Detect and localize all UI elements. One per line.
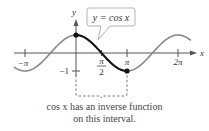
y-axis-label: y xyxy=(71,7,76,17)
point-max xyxy=(73,32,78,37)
label-pi: π xyxy=(125,57,130,67)
label-neg-one: −1 xyxy=(59,66,69,76)
y-axis-arrow-icon xyxy=(74,19,79,26)
caption-line-1: cos x has an inverse function xyxy=(0,101,209,113)
caption-line-2: on this interval. xyxy=(0,113,209,125)
point-min xyxy=(124,68,129,73)
x-axis-label: x xyxy=(199,48,204,58)
interval-bracket xyxy=(76,75,127,98)
label-two-pi: 2π xyxy=(173,57,183,67)
label-half-pi-den: 2 xyxy=(99,67,104,77)
x-axis-arrow-icon xyxy=(190,51,197,56)
label-neg-pi: −π xyxy=(18,58,29,68)
callout-text: y = cos x xyxy=(92,12,130,23)
label-half-pi-num: π xyxy=(99,56,104,66)
